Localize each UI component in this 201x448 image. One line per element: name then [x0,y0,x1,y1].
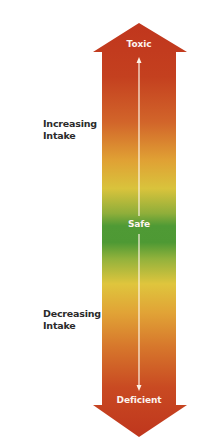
increasing-line1: Increasing [43,118,97,130]
safe-label: Safe [99,219,179,229]
increasing-intake-label: Increasing Intake [43,118,97,142]
arrow-shape [93,23,187,437]
decreasing-intake-label: Decreasing Intake [43,308,101,332]
decreasing-line1: Decreasing [43,308,101,320]
intake-spectrum-diagram: Toxic Safe Deficient Increasing Intake D… [0,0,201,448]
increasing-line2: Intake [43,130,97,142]
toxic-label: Toxic [99,39,179,49]
deficient-label: Deficient [99,395,179,405]
decreasing-line2: Intake [43,320,101,332]
